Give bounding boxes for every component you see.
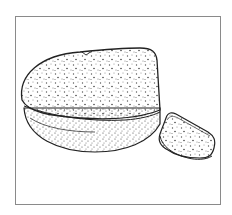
bread-illustration: [0, 0, 232, 215]
loaf: [22, 48, 160, 152]
slice: [159, 113, 214, 160]
